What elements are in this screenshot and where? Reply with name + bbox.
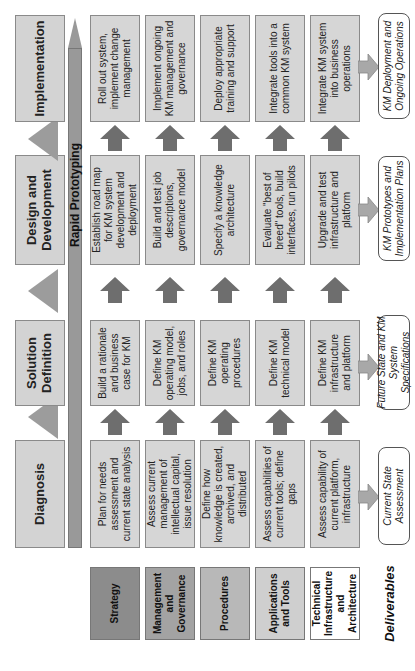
cell-strategy-solution: Build a rationale and business case for … (90, 320, 140, 406)
row-label-procedures: Procedures (200, 567, 250, 640)
row-label-management-governance: Management and Governance (145, 567, 195, 640)
deliverable-arrow-icon (358, 483, 380, 511)
deliverable-future-state: Future State and KM System Specification… (378, 315, 410, 410)
deliverable-arrow-icon (358, 53, 380, 81)
cell-strategy-implementation: Roll out system, implement change manage… (90, 15, 140, 122)
cell-procedures-design: Specify a knowledge architecture (200, 155, 250, 265)
deliverable-prototypes-plans: KM Prototypes and Implementation Plans (378, 156, 410, 261)
phase-solution-definition: Solution Definition (15, 320, 65, 406)
right-arrows-col2-icon (90, 275, 360, 305)
cell-applications-implementation: Integrate tools into a common KM system (255, 15, 305, 122)
cell-technical-diagnosis: Assess capability of current platform, i… (310, 440, 360, 548)
cell-technical-design: Upgrade and test infrastructure and plat… (310, 155, 360, 265)
row-label-technical-infrastructure: Technical Infrastructure and Architectur… (310, 567, 360, 640)
cell-management-implementation: Implement ongoing KM management and gove… (145, 15, 195, 122)
cell-procedures-solution: Define KM operating procedures (200, 320, 250, 406)
cell-management-design: Build and test job descriptions, governa… (145, 155, 195, 265)
phase-diagnosis: Diagnosis (15, 440, 65, 548)
deliverables-label: Deliverables (372, 567, 406, 640)
cell-strategy-design: Establish road map for KM system develop… (90, 155, 140, 265)
cell-technical-implementation: Integrate KM system into business operat… (310, 15, 360, 122)
cell-applications-solution: Define KM technical model (255, 320, 305, 406)
deliverable-current-state: Current State Assessment (378, 447, 410, 545)
deliverable-deployment-operations: KM Deployment and Ongoing Operations (378, 13, 410, 119)
deliverable-arrow-icon (358, 196, 380, 224)
phase-design-development: Design and Development (15, 155, 65, 265)
cell-strategy-diagnosis: Plan for needs assessment and current st… (90, 440, 140, 548)
cell-management-solution: Define KM operating model, jobs, and rol… (145, 320, 195, 406)
cell-technical-solution: Define KM infrastructure and platform (310, 320, 360, 406)
rapid-prototyping-arrowhead-icon (68, 18, 82, 48)
km-roadmap-diagram: Diagnosis Solution Definition Design and… (0, 0, 415, 671)
phase-implementation: Implementation (15, 15, 65, 122)
cell-applications-design: Evaluate "best of breed" tools, build in… (255, 155, 305, 265)
phase-arrow-icon (28, 269, 58, 313)
phase-arrow-icon (28, 117, 58, 161)
cell-procedures-diagnosis: Define how knowledge is created, archive… (200, 440, 250, 548)
cell-applications-diagnosis: Assess capabilities of current tools; de… (255, 440, 305, 548)
cell-management-diagnosis: Assess current management of intellectua… (145, 440, 195, 548)
row-label-strategy: Strategy (90, 567, 140, 640)
right-arrows-col1-icon (90, 407, 360, 437)
rapid-prototyping-bar: Rapid Prototyping (68, 48, 82, 548)
cell-procedures-implementation: Deploy appropriate training and support (200, 15, 250, 122)
right-arrows-col3-icon (90, 123, 360, 153)
row-label-applications-tools: Applications and Tools (255, 567, 305, 640)
